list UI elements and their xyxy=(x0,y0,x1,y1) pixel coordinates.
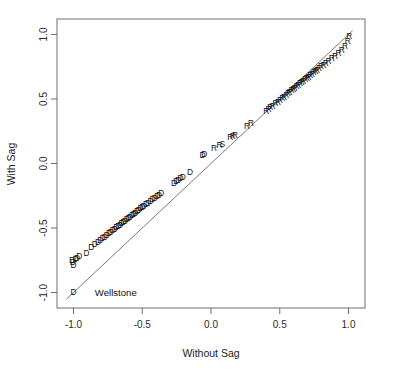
data-point-label: S xyxy=(219,139,225,149)
data-point-label: D xyxy=(180,172,186,182)
x-tick-label: -1.0 xyxy=(65,319,83,330)
y-axis-title: With Sag xyxy=(5,143,17,186)
data-point-label: R xyxy=(248,118,254,128)
data-point-label: D xyxy=(158,188,164,198)
x-tick-label: 0.0 xyxy=(204,319,218,330)
y-tick-label: -0.5 xyxy=(38,219,49,237)
y-tick-label: 0.5 xyxy=(38,92,49,106)
data-point-label: D xyxy=(187,167,193,177)
data-point-label: D xyxy=(201,149,207,159)
y-tick-label: 0.0 xyxy=(38,156,49,170)
point-annotations: Wellstone xyxy=(95,287,137,298)
x-tick-label: -0.5 xyxy=(134,319,152,330)
data-point-label: R xyxy=(232,130,238,140)
data-point-label: D xyxy=(70,287,76,297)
x-tick-label: 0.5 xyxy=(273,319,287,330)
data-point-label: R xyxy=(346,31,352,41)
scatter-plot-figure: -1.0-0.50.00.51.0 -1.0-0.50.00.51.0 DDDD… xyxy=(0,0,396,372)
x-tick-label: 1.0 xyxy=(342,319,356,330)
chart-canvas: -1.0-0.50.00.51.0 -1.0-0.50.00.51.0 DDDD… xyxy=(0,0,396,372)
y-tick-label: 1.0 xyxy=(38,27,49,41)
data-point-label: D xyxy=(76,251,82,261)
y-tick-label: -1.0 xyxy=(38,283,49,301)
x-axis-title: Without Sag xyxy=(182,347,239,359)
annotation-label: Wellstone xyxy=(95,287,137,298)
